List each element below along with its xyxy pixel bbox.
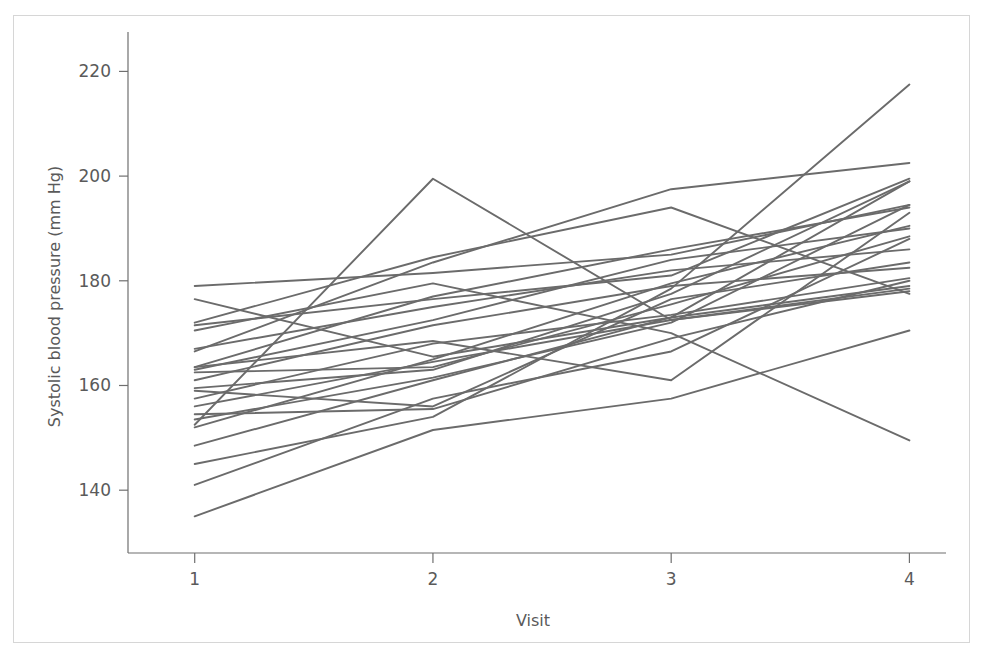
series-layer xyxy=(195,84,910,516)
x-axis-title: Visit xyxy=(516,611,550,630)
x-tick-label: 3 xyxy=(666,569,677,589)
series-line xyxy=(195,181,910,388)
series-line xyxy=(195,84,910,464)
axis-labels-layer: 1401601802002201234VisitSystolic blood p… xyxy=(45,61,915,630)
series-line xyxy=(195,268,910,381)
y-tick-label: 140 xyxy=(79,480,111,500)
figure-root: 1401601802002201234VisitSystolic blood p… xyxy=(0,0,984,659)
y-tick-label: 220 xyxy=(79,61,111,81)
x-tick-label: 4 xyxy=(904,569,915,589)
x-tick-label: 2 xyxy=(428,569,439,589)
series-line xyxy=(195,179,910,425)
x-tick-label: 1 xyxy=(189,569,200,589)
series-line xyxy=(195,331,910,517)
y-tick-label: 180 xyxy=(79,271,111,291)
y-tick-label: 160 xyxy=(79,375,111,395)
spaghetti-plot: 1401601802002201234VisitSystolic blood p… xyxy=(0,0,984,659)
y-tick-label: 200 xyxy=(79,166,111,186)
series-line xyxy=(195,213,910,381)
y-axis-title: Systolic blood pressure (mm Hg) xyxy=(45,166,64,427)
